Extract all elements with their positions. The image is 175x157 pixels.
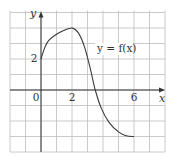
tick-label-x-6: 6 — [131, 91, 138, 103]
x-axis-label: x — [159, 92, 166, 105]
tick-label-y-2: 2 — [31, 52, 38, 64]
function-graph: y = f(x) y x 0 2 6 2 — [0, 0, 175, 157]
tick-label-x-2: 2 — [69, 91, 76, 103]
y-axis-label: y — [29, 7, 37, 20]
tick-label-origin: 0 — [33, 91, 40, 103]
curve-label: y = f(x) — [96, 42, 136, 54]
grid-lines — [10, 11, 165, 153]
